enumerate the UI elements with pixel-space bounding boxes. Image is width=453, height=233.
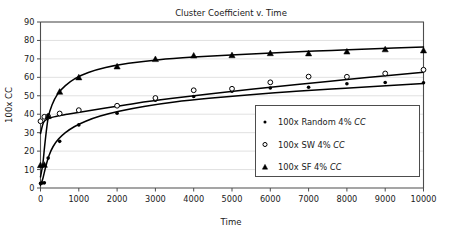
legend-item-label: 100x SW 4% CC: [278, 140, 345, 150]
x-tick-label: 9000: [375, 194, 396, 204]
data-point-open-circle: [153, 96, 158, 101]
legend-item-0[interactable]: 100x Random 4% CC: [263, 117, 365, 127]
data-point-filled-circle: [46, 156, 50, 160]
y-tick-label: 20: [24, 146, 34, 156]
y-tick-label: 90: [24, 17, 34, 27]
data-point-open-circle: [57, 111, 62, 116]
x-tick-label: 7000: [298, 194, 319, 204]
x-tick-label: 2000: [107, 194, 128, 204]
data-point-open-circle: [383, 71, 388, 76]
x-tick-label: 10000: [410, 194, 436, 204]
y-tick-label: 70: [24, 54, 34, 64]
y-tick-label: 50: [24, 91, 34, 101]
data-point-filled-circle: [422, 81, 426, 85]
data-point-open-circle: [115, 103, 120, 108]
data-point-open-circle: [191, 88, 196, 93]
x-tick-label: 3000: [145, 194, 166, 204]
data-point-filled-circle: [307, 85, 311, 89]
data-point-filled-circle: [43, 181, 47, 185]
data-point-open-circle: [230, 86, 235, 91]
data-point-open-circle: [421, 67, 426, 72]
data-point-open-circle: [76, 108, 81, 113]
data-point-filled-circle: [192, 95, 196, 99]
data-point-filled-circle: [77, 123, 81, 127]
data-point-filled-circle: [263, 120, 266, 123]
data-point-open-circle: [268, 80, 273, 85]
x-axis-label: Time: [220, 217, 242, 227]
data-point-filled-circle: [383, 81, 387, 85]
x-tick-label: 6000: [260, 194, 281, 204]
y-tick-label: 0: [29, 183, 34, 193]
data-point-filled-circle: [345, 82, 349, 86]
data-point-filled-circle: [115, 112, 119, 116]
x-tick-label: 5000: [222, 194, 243, 204]
x-tick-label: 8000: [336, 194, 357, 204]
y-tick-label: 80: [24, 35, 34, 45]
y-tick-label: 30: [24, 128, 34, 138]
data-point-open-circle: [345, 74, 350, 79]
legend-item-label: 100x SF 4% CC: [278, 162, 342, 172]
data-point-filled-circle: [269, 86, 273, 90]
x-tick-label: 4000: [183, 194, 204, 204]
legend-item-label: 100x Random 4% CC: [278, 117, 366, 127]
chart-legend[interactable]: 100x Random 4% CC100x SW 4% CC100x SF 4%…: [256, 106, 420, 177]
y-tick-label: 10: [24, 165, 34, 175]
y-tick-label: 60: [24, 72, 34, 82]
chart-container: Cluster Coefficient v. Time 010203040506…: [0, 0, 453, 233]
y-tick-label: 40: [24, 109, 34, 119]
data-point-open-circle: [263, 142, 267, 146]
chart-title: Cluster Coefficient v. Time: [175, 8, 287, 18]
data-point-open-circle: [306, 74, 311, 79]
data-point-filled-circle: [58, 140, 62, 144]
data-point-open-circle: [38, 119, 43, 124]
x-tick-label: 1000: [68, 194, 89, 204]
y-axis-label: 100x CC: [4, 87, 14, 123]
x-tick-label: 0: [38, 194, 43, 204]
cluster-coefficient-chart: Cluster Coefficient v. Time 010203040506…: [0, 0, 453, 233]
